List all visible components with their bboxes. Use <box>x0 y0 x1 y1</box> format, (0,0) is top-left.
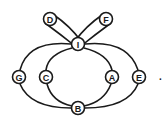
svg-text:I: I <box>77 40 80 50</box>
edge-e-b <box>85 84 138 108</box>
node-g: G <box>13 71 26 84</box>
edge-a-b <box>84 84 111 106</box>
svg-text:G: G <box>15 73 22 83</box>
node-e: E <box>133 71 146 84</box>
svg-text:C: C <box>43 73 50 83</box>
edge-g-b <box>20 84 71 108</box>
svg-text:D: D <box>47 15 54 25</box>
edge-i-c <box>46 48 72 70</box>
svg-text:E: E <box>136 73 142 83</box>
node-f: F <box>100 13 113 26</box>
edge-c-b <box>47 84 72 106</box>
svg-text:A: A <box>109 73 116 83</box>
node-c: C <box>40 71 53 84</box>
edge-i-g <box>20 44 71 70</box>
edge-d-i-lower <box>45 23 75 46</box>
node-i: I <box>72 38 85 51</box>
graph-diagram: D F I G C A E B . <box>0 0 168 120</box>
svg-text:F: F <box>103 15 109 25</box>
node-d: D <box>44 13 57 26</box>
edge-f-i-lower <box>81 23 111 46</box>
edge-i-a <box>84 48 112 70</box>
node-b: B <box>72 102 85 115</box>
node-a: A <box>106 71 119 84</box>
trailing-period: . <box>159 71 162 82</box>
svg-text:B: B <box>75 104 82 114</box>
